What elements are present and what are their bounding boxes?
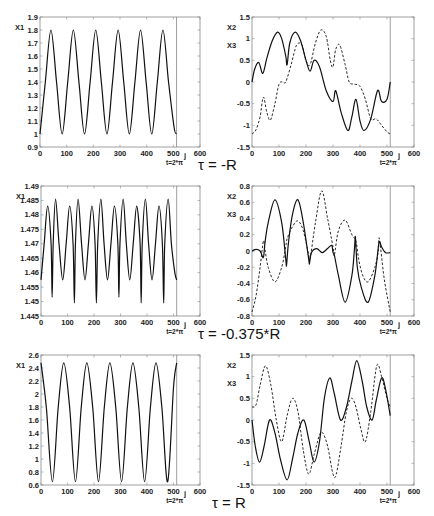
y-tick-label: 1.465 [20,254,39,263]
x-tick-label: 100 [61,487,74,496]
chart-svg: 0100200300400500600-0.8-0.6-0.4-0.200.20… [213,169,434,339]
y-tick-label: 0 [246,416,250,425]
x-tick-label: 400 [354,318,367,327]
y-axis-label: X1 [16,192,25,201]
x-axis-label: j [183,489,186,498]
x-tick-label: 300 [327,149,340,158]
y-tick-label: 1.9 [28,13,38,22]
x-axis-label: j [397,320,400,329]
plot-x1-tau-minus-0375r: 01002003004005006001.4451.451.4551.461.4… [0,169,215,339]
y-tick-label: 1.4 [29,429,40,438]
y-tick-label: 1.8 [28,26,38,35]
x-tick-label: 400 [354,487,367,496]
y-tick-label: 1.7 [28,39,38,48]
y-tick-label: -1.5 [237,481,250,490]
y-tick-label: 0.5 [240,394,250,403]
y-tick-label: 1.475 [20,225,39,234]
x-tick-label: 500 [167,487,180,496]
y-tick-label: 0.6 [29,481,39,490]
period-marker-label: t=2*π [380,328,397,335]
chart-svg: 01002003004005006001.4451.451.4551.461.4… [0,169,215,339]
x-tick-label: 200 [300,318,313,327]
y-tick-label: 2.6 [29,351,39,360]
x-tick-label: 200 [88,487,101,496]
x-tick-label: 200 [88,318,101,327]
y-tick-label: 1.2 [29,442,39,451]
x-tick-label: 300 [114,318,127,327]
x-tick-label: 400 [140,149,153,158]
x-tick-label: 300 [327,318,340,327]
y-tick-label: -1 [243,121,250,130]
plot-frame [41,186,200,316]
y-tick-label: 0.2 [240,230,250,239]
plot-x2-x3-tau-minus-0375r: 0100200300400500600-0.8-0.6-0.4-0.200.20… [213,169,434,339]
y-tick-label: 1.8 [29,403,39,412]
y-tick-label: 1 [34,130,38,139]
y-tick-label: 1.5 [240,351,250,360]
y-tick-label: -0.2 [237,263,250,272]
chart-svg: 0100200300400500600-1.5-1-0.500.511.5X2X… [213,0,434,170]
y-tick-label: 1.1 [28,117,38,126]
y-tick-label: 0 [246,78,250,87]
y-tick-label: 1.46 [24,268,39,277]
y-axis-label: X2 [227,361,236,370]
x-tick-label: 200 [87,149,100,158]
series-line-solid [40,30,177,134]
y-tick-label: 0.9 [28,143,38,152]
x-tick-label: 500 [381,487,394,496]
y-tick-label: -0.4 [237,279,251,288]
series-line-dashed [252,30,390,134]
plot-x1-tau-r: 01002003004005006000.60.811.21.41.61.822… [0,338,215,508]
x-axis-label: j [183,320,186,329]
x-tick-label: 500 [381,318,394,327]
x-tick-label: 400 [141,487,154,496]
y-tick-label: 1.3 [28,91,38,100]
y-tick-label: 1.47 [24,239,39,248]
chart-svg: 01002003004005006000.911.11.21.31.41.51.… [0,0,215,170]
y-tick-label: 0.8 [240,182,250,191]
x-tick-label: 0 [38,149,42,158]
y-tick-label: 1.2 [28,104,38,113]
x-tick-label: 600 [408,149,421,158]
period-marker-label: t=2*π [380,497,397,504]
x-tick-label: 600 [408,318,421,327]
y-tick-label: -0.8 [237,312,250,321]
y-tick-label: 0.6 [240,198,250,207]
series-line-dashed [252,364,390,477]
y-axis-label: X3 [227,210,236,219]
y-axis-label: X3 [227,379,236,388]
x-tick-label: 100 [273,487,286,496]
y-axis-label: X1 [16,361,25,370]
series-line-solid [252,32,390,130]
series-line-solid [41,363,177,482]
y-axis-label: X2 [227,23,236,32]
x-axis-label: j [397,489,400,498]
y-tick-label: 2.4 [29,364,40,373]
x-tick-label: 300 [327,487,340,496]
y-tick-label: 1.6 [28,52,38,61]
x-tick-label: 100 [273,149,286,158]
y-tick-label: 1.445 [20,312,39,321]
x-tick-label: 600 [194,487,207,496]
y-axis-label: X1 [15,23,24,32]
period-marker-label: t=2*π [166,328,183,335]
x-tick-label: 600 [408,487,421,496]
y-tick-label: 1.455 [20,283,39,292]
y-tick-label: 1 [246,34,250,43]
y-tick-label: 1 [35,455,39,464]
y-tick-label: 2.2 [29,377,39,386]
x-tick-label: 0 [250,487,254,496]
x-tick-label: 300 [114,149,127,158]
x-tick-label: 100 [61,318,74,327]
period-marker-label: t=2*π [166,497,183,504]
plot-x2-x3-tau-minus-r: 0100200300400500600-1.5-1-0.500.511.5X2X… [213,0,434,170]
y-tick-label: 1.45 [24,297,39,306]
y-tick-label: 0.5 [240,56,250,65]
plot-x1-tau-minus-r: 01002003004005006000.911.11.21.31.41.51.… [0,0,215,170]
x-tick-label: 500 [381,149,394,158]
x-tick-label: 200 [300,487,313,496]
x-tick-label: 400 [354,149,367,158]
y-tick-label: 1.49 [24,182,39,191]
x-tick-label: 500 [167,318,180,327]
x-tick-label: 500 [167,149,180,158]
